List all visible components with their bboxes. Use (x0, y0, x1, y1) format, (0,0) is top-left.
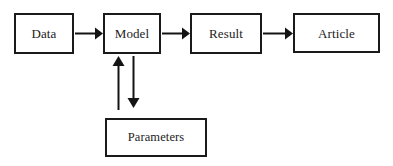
edge-data-to-model (75, 28, 103, 40)
node-data[interactable]: Data (14, 13, 74, 54)
node-result[interactable]: Result (190, 13, 262, 54)
node-parameters-label: Parameters (128, 131, 185, 144)
node-model[interactable]: Model (103, 13, 161, 54)
node-article-label: Article (318, 27, 355, 40)
diagram-canvas: Data Model Result Article Parameters (0, 0, 393, 166)
edge-model-to-parameters (128, 56, 140, 108)
node-model-label: Model (115, 27, 149, 40)
edge-result-to-article (263, 28, 293, 40)
node-data-label: Data (32, 27, 57, 40)
edge-model-to-result (162, 28, 190, 40)
node-result-label: Result (209, 27, 243, 40)
node-article[interactable]: Article (293, 13, 380, 53)
node-parameters[interactable]: Parameters (105, 118, 207, 157)
edge-parameters-to-model (113, 56, 125, 110)
